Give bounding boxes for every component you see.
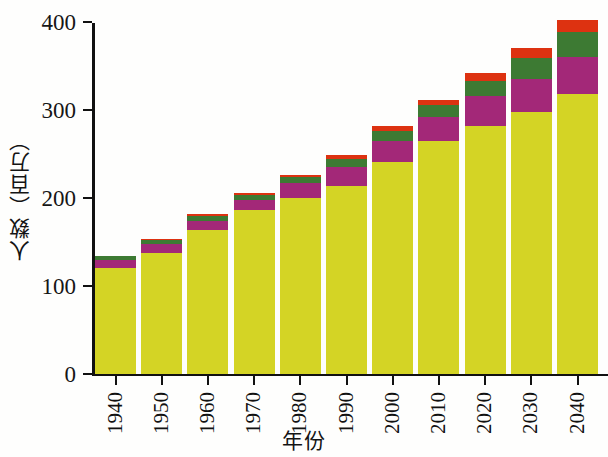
y-axis-title: 人数（百万） [0,0,42,390]
x-tick-2040 [577,376,579,385]
x-tick-2020 [484,376,486,385]
y-tick-300: 300 [83,109,92,111]
plot-area: 0100200300400 19401950196019701980199020… [92,10,608,375]
bar-2020 [465,73,506,373]
y-tick-400: 400 [83,21,92,23]
bar-segment-segment-1-yellow [141,253,182,374]
bar-segment-segment-2-magenta [557,57,598,94]
bar-2040 [557,20,598,374]
bar-segment-segment-2-magenta [372,141,413,162]
bar-2010 [418,100,459,374]
bar-1970 [234,193,275,373]
y-axis-title-label: 人数（百万） [6,129,36,261]
bar-1960 [187,214,228,373]
y-tick-label: 300 [42,98,77,121]
bar-segment-segment-1-yellow [187,230,228,373]
bar-2030 [511,48,552,374]
bar-segment-segment-4-red [465,73,506,80]
x-tick-1980 [299,376,301,385]
y-tick-200: 200 [83,197,92,199]
bar-segment-segment-1-yellow [511,112,552,373]
bar-segment-segment-1-yellow [372,162,413,373]
x-tick-1940 [115,376,117,385]
bar-segment-segment-1-yellow [557,94,598,374]
bar-segment-segment-1-yellow [280,198,321,374]
x-axis-title: 年份 [0,424,608,454]
bar-segment-segment-1-yellow [95,268,136,374]
bar-segment-segment-2-magenta [280,183,321,197]
x-tick-1970 [253,376,255,385]
bar-segment-segment-2-magenta [511,79,552,112]
y-tick-100: 100 [83,285,92,287]
bar-segment-segment-2-magenta [95,260,136,268]
bar-segment-segment-4-red [511,48,552,58]
bar-segment-segment-3-green [511,58,552,79]
bar-segment-segment-1-yellow [234,210,275,374]
bar-segment-segment-3-green [418,105,459,116]
x-tick-1960 [207,376,209,385]
bar-segment-segment-3-green [465,81,506,97]
y-tick-label: 0 [65,362,77,385]
x-tick-2030 [530,376,532,385]
y-tick-label: 100 [42,274,77,297]
bar-segment-segment-4-red [557,20,598,32]
bar-segment-segment-1-yellow [326,186,367,373]
bar-1980 [280,175,321,374]
bar-segment-segment-2-magenta [418,117,459,142]
bar-segment-segment-3-green [372,131,413,142]
bar-1990 [326,155,367,373]
y-tick-label: 200 [42,186,77,209]
bar-segment-segment-2-magenta [326,167,367,186]
x-tick-2000 [392,376,394,385]
y-tick-label: 400 [42,10,77,33]
x-tick-2010 [438,376,440,385]
bar-segment-segment-1-yellow [465,126,506,373]
bar-1950 [141,239,182,374]
x-tick-1990 [346,376,348,385]
bar-segment-segment-2-magenta [465,96,506,126]
bar-2000 [372,126,413,373]
bar-segment-segment-3-green [557,32,598,57]
bar-segment-segment-2-magenta [187,221,228,230]
stacked-bar-chart: 人数（百万） 0100200300400 1940195019601970198… [0,0,608,457]
bar-segment-segment-2-magenta [141,244,182,253]
x-tick-1950 [161,376,163,385]
bar-segment-segment-3-green [326,159,367,167]
bar-1940 [95,256,136,373]
bar-segment-segment-1-yellow [418,141,459,373]
bar-segment-segment-2-magenta [234,200,275,210]
y-tick-0: 0 [83,373,92,375]
